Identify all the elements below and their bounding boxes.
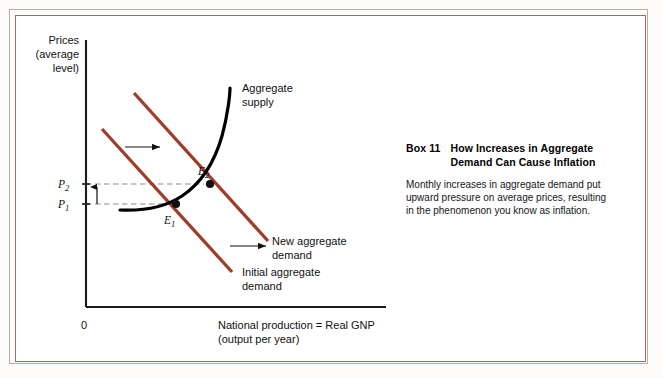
initial-aggregate-demand-label-line1: Initial aggregate: [242, 266, 320, 278]
box-body-line1: Monthly increases in aggregate demand pu…: [406, 178, 638, 191]
aggregate-supply-curve: [120, 88, 230, 210]
box-heading: Box 11 How Increases in Aggregate Demand…: [406, 142, 638, 169]
box-title-text: How Increases in Aggregate Demand Can Ca…: [450, 142, 595, 169]
box-text-panel: Box 11 How Increases in Aggregate Demand…: [406, 142, 638, 218]
x-axis-label-line2: (output per year): [218, 333, 299, 345]
box-body-text: Monthly increases in aggregate demand pu…: [406, 178, 638, 218]
equilibrium-label-e1: E1: [163, 214, 175, 229]
equilibrium-point-e1: [172, 200, 180, 208]
y-axis-label-line2: (average: [36, 48, 79, 60]
box-title-line2: Demand Can Cause Inflation: [450, 156, 595, 168]
aggregate-supply-demand-chart: Prices (average level) 0 National produc…: [18, 18, 398, 358]
price-label-p1: P1: [57, 198, 69, 213]
box-title-line1: How Increases in Aggregate: [450, 142, 593, 154]
origin-label: 0: [81, 319, 87, 331]
initial-aggregate-demand-label-line2: demand: [242, 280, 282, 292]
box-body-line3: in the phenomenon you know as inflation.: [406, 204, 638, 217]
new-aggregate-demand-label-line2: demand: [272, 249, 312, 261]
aggregate-supply-label-line1: Aggregate: [242, 82, 293, 94]
box-body-line2: upward pressure on average prices, resul…: [406, 191, 638, 204]
initial-aggregate-demand-line: [102, 129, 232, 272]
box-number-label: Box 11: [406, 142, 440, 169]
new-aggregate-demand-label-line1: New aggregate: [272, 235, 347, 247]
chart-axes: [86, 40, 386, 307]
y-axis-label-line1: Prices: [48, 34, 79, 46]
aggregate-supply-label-line2: supply: [242, 96, 274, 108]
price-label-p2: P2: [57, 178, 70, 193]
y-axis-label-line3: level): [53, 62, 79, 74]
x-axis-label-line1: National production = Real GNP: [218, 319, 375, 331]
equilibrium-point-e2: [206, 180, 214, 188]
figure-page: Prices (average level) 0 National produc…: [0, 0, 662, 378]
